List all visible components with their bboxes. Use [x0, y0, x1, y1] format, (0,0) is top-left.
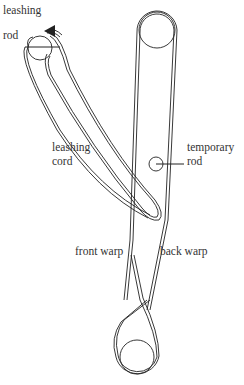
- back-warp-label: back warp: [160, 244, 208, 258]
- leashing-cord: [45, 34, 161, 220]
- top-rod: [139, 12, 175, 48]
- leashing-cord-label: leashing cord: [52, 140, 90, 168]
- leashing-rod-label: leashing rod: [3, 3, 41, 42]
- front-warp-label: front warp: [75, 244, 123, 258]
- bottom-rod: [120, 340, 154, 374]
- loom-diagram: [0, 0, 244, 385]
- temporary-rod-label: temporary rod: [187, 140, 234, 168]
- back-warp-loop: [137, 11, 177, 310]
- leashing-arrow-icon: [44, 25, 55, 37]
